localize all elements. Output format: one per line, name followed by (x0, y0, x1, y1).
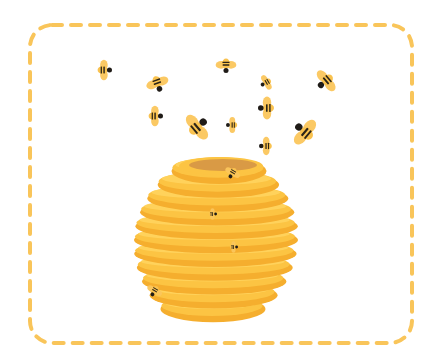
beehive-illustration (0, 0, 443, 363)
hive-opening (189, 159, 257, 171)
